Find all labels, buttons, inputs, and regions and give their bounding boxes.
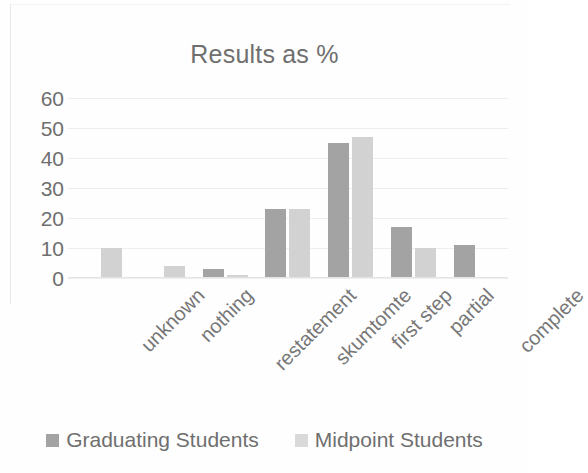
y-axis-tick-label: 10 (20, 238, 64, 259)
bar (391, 227, 412, 278)
x-axis-tick-label: partial (444, 284, 499, 339)
y-axis-tick-labels: 6050403020100 (20, 98, 64, 278)
bar (328, 143, 349, 278)
x-axis-line (68, 277, 508, 278)
legend-item[interactable]: Graduating Students (46, 428, 259, 452)
bar (415, 248, 436, 278)
legend-label: Midpoint Students (315, 428, 483, 452)
bar (454, 245, 475, 278)
x-axis-tick-labels: unknownnothingrestatementskumtomtefirst … (68, 280, 508, 395)
gridline (68, 278, 508, 279)
y-axis-tick-label: 50 (20, 118, 64, 139)
bar (289, 209, 310, 278)
chart-title: Results as % (0, 40, 529, 69)
bar-group (194, 98, 257, 278)
y-axis-tick-label: 0 (20, 268, 64, 289)
y-axis-tick-label: 60 (20, 88, 64, 109)
bar-group (382, 98, 445, 278)
bar (265, 209, 286, 278)
legend-item[interactable]: Midpoint Students (295, 428, 483, 452)
legend-swatch-icon (46, 434, 59, 447)
y-axis-tick-label: 20 (20, 208, 64, 229)
bars-layer (68, 98, 508, 278)
bar-group (445, 98, 508, 278)
y-axis-tick-label: 30 (20, 178, 64, 199)
bar (101, 248, 122, 278)
x-axis-tick-label: unknown (137, 284, 210, 357)
bar-group (319, 98, 382, 278)
legend-swatch-icon (295, 434, 308, 447)
bar-group (68, 98, 131, 278)
x-axis-tick-label: nothing (196, 284, 259, 347)
bar (352, 137, 373, 278)
image-frame-top-edge (10, 4, 510, 5)
legend-label: Graduating Students (66, 428, 259, 452)
x-axis-tick-label: complete (514, 284, 588, 358)
chart-legend: Graduating StudentsMidpoint Students (0, 428, 529, 452)
y-axis-tick-label: 40 (20, 148, 64, 169)
plot-area (68, 98, 508, 278)
bar-group (257, 98, 320, 278)
bar-group (131, 98, 194, 278)
